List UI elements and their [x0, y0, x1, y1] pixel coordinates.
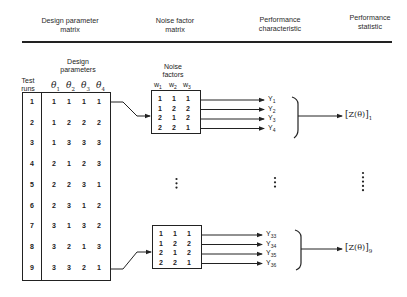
ellipsis-dot [175, 182, 177, 184]
performance-characteristic-label: Y1 [268, 95, 275, 104]
performance-characteristic-label: Y35 [266, 249, 276, 258]
y-subscript: 34 [271, 243, 277, 249]
ellipsis-dot [274, 177, 276, 179]
performance-characteristic-label: Y33 [266, 230, 276, 239]
y-subscript: 1 [273, 98, 276, 104]
statistic-bottom: [Z(θ)]9 [345, 242, 372, 254]
performance-characteristic-label: Y2 [268, 105, 275, 114]
ellipsis-dot [362, 181, 364, 183]
ellipsis-dot [362, 189, 364, 191]
performance-characteristic-label: Y36 [266, 259, 276, 268]
ellipsis-dot [175, 178, 177, 180]
brace-top [292, 97, 298, 138]
ellipsis-dot [362, 185, 364, 187]
statistic-expression: Z(θ) [349, 243, 366, 252]
performance-characteristic-label: Y4 [268, 124, 275, 133]
statistic-expression: Z(θ) [349, 110, 366, 119]
y-subscript: 3 [273, 117, 276, 123]
ellipsis-dot [362, 176, 364, 178]
ellipsis-dot [274, 181, 276, 183]
y-subscript: 4 [273, 127, 276, 133]
ellipsis-dot [362, 172, 364, 174]
brace-bottom [295, 230, 301, 270]
statistic-subscript: 1 [369, 115, 373, 121]
ellipsis-dot [274, 186, 276, 188]
ellipsis-dot [175, 187, 177, 189]
performance-characteristic-label: Y34 [266, 240, 276, 249]
performance-characteristic-label: Y3 [268, 114, 275, 123]
connector-run1-to-noise [111, 102, 150, 116]
y-subscript: 36 [271, 262, 277, 268]
y-subscript: 33 [271, 233, 277, 239]
statistic-top: [Z(θ)]1 [345, 109, 372, 121]
output-arrows [201, 100, 264, 264]
y-subscript: 2 [273, 108, 276, 114]
y-subscript: 35 [271, 252, 277, 258]
ellipsis-dots [175, 172, 364, 191]
connector-run9-to-noise [111, 252, 151, 269]
statistic-subscript: 9 [369, 248, 373, 254]
